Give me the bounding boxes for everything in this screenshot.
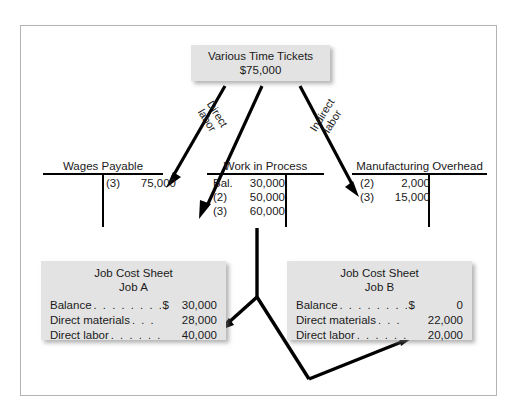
t-account-body: (3) 75,000 [43,175,163,227]
t-account-title: Work in Process [207,160,324,173]
row-leader: . . . . . . [357,328,413,343]
t-account-entry: (3) 75,000 [106,176,176,190]
entry-amount: 15,000 [386,190,430,204]
t-account-body: Bal. 30,000 (2) 50,000 (3) 60,000 [207,175,324,227]
entry-amount: 30,000 [241,176,285,190]
row-label: Balance [50,298,92,313]
tickets-title: Various Time Tickets [191,49,330,63]
t-account-debit-entries: Bal. 30,000 (2) 50,000 (3) 60,000 [213,176,285,218]
row-leader: . . . . . . . . . [94,298,161,313]
entry-amount: 50,000 [241,190,285,204]
job-sheet-row: Direct labor . . . . . . 20,000 [296,328,463,343]
row-amount: 22,000 [415,313,463,328]
row-amount: 20,000 [415,328,463,343]
t-account-manufacturing-overhead: Manufacturing Overhead (2) 2,000 (3) 15,… [352,160,487,227]
row-label: Direct labor [296,328,355,343]
job-sheet-subtitle: Job A [41,280,226,294]
job-sheet-row: Balance . . . . . . . . . $ 0 [296,298,463,313]
diagram-canvas: Various Time Tickets $75,000 Direct labo… [0,0,519,416]
row-label: Direct materials [50,313,130,328]
job-sheet-row: Direct labor . . . . . . 40,000 [50,328,217,343]
t-account-wages-payable: Wages Payable (3) 75,000 [43,160,163,227]
row-label: Balance [296,298,338,313]
job-sheet-rows: Balance . . . . . . . . . $ 0 Direct mat… [287,298,472,343]
various-time-tickets-box: Various Time Tickets $75,000 [191,45,330,81]
row-leader: . . . . . . . . . [340,298,407,313]
tickets-amount: $75,000 [191,63,330,77]
entry-amount: 75,000 [132,176,176,190]
row-label: Direct materials [296,313,376,328]
t-account-entry: (2) 50,000 [213,190,285,204]
row-leader: . . . [378,313,413,328]
job-sheet-row: Balance . . . . . . . . . $ 30,000 [50,298,217,313]
row-leader: . . . [132,313,167,328]
row-amount: 28,000 [169,313,217,328]
t-account-work-in-process: Work in Process Bal. 30,000 (2) 50,000 (… [207,160,324,227]
entry-ref: (3) [213,204,241,218]
t-account-stem [285,175,287,227]
t-account-body: (2) 2,000 (3) 15,000 [352,175,487,227]
entry-ref: Bal. [213,176,241,190]
t-account-entry: Bal. 30,000 [213,176,285,190]
row-label: Direct labor [50,328,109,343]
row-amount: 30,000 [169,298,217,313]
t-account-title: Manufacturing Overhead [352,160,487,173]
job-sheet-subtitle: Job B [287,280,472,294]
job-cost-sheet-b: Job Cost Sheet Job B Balance . . . . . .… [287,261,472,340]
job-cost-sheet-a: Job Cost Sheet Job A Balance . . . . . .… [41,261,226,340]
t-account-entry: (2) 2,000 [360,176,430,190]
t-account-entry: (3) 15,000 [360,190,430,204]
entry-ref: (3) [106,176,132,190]
job-sheet-row: Direct materials . . . 28,000 [50,313,217,328]
job-sheet-rows: Balance . . . . . . . . . $ 30,000 Direc… [41,298,226,343]
t-account-debit-entries: (2) 2,000 (3) 15,000 [360,176,430,204]
row-leader: . . . . . . [111,328,167,343]
row-amount: 0 [415,298,463,313]
t-account-title: Wages Payable [43,160,163,173]
entry-ref: (2) [360,176,386,190]
t-account-stem [102,175,104,227]
entry-ref: (2) [213,190,241,204]
entry-ref: (3) [360,190,386,204]
entry-amount: 2,000 [386,176,430,190]
t-account-entry: (3) 60,000 [213,204,285,218]
row-amount: 40,000 [169,328,217,343]
job-sheet-title: Job Cost Sheet [287,266,472,280]
job-sheet-row: Direct materials . . . 22,000 [296,313,463,328]
job-sheet-title: Job Cost Sheet [41,266,226,280]
t-account-credit-entries: (3) 75,000 [106,176,176,190]
entry-amount: 60,000 [241,204,285,218]
